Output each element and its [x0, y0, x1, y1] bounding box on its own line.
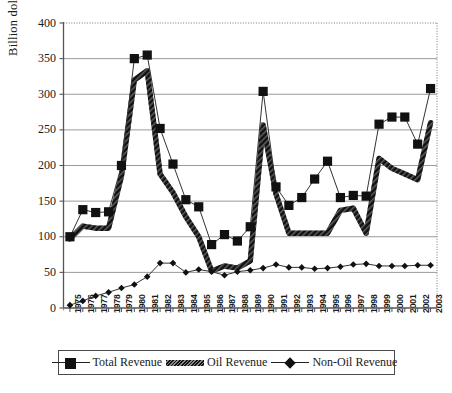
legend-item-non-oil-revenue: Non-Oil Revenue [271, 355, 401, 370]
legend-item-total-revenue: Total Revenue [52, 355, 166, 370]
line-diamond-marker-icon [271, 356, 309, 370]
line-square-marker-icon [52, 356, 90, 370]
legend-label-oil-revenue: Oil Revenue [204, 355, 271, 370]
series-oil-revenue [70, 71, 431, 271]
series-total-revenue [65, 50, 435, 249]
plot-area [0, 0, 452, 393]
chart-figure: Billion dollar 050100150200250300350400 … [0, 0, 452, 393]
thick-hatched-line-icon [166, 356, 204, 370]
legend-item-oil-revenue: Oil Revenue [166, 355, 271, 370]
axis-lines [60, 22, 438, 312]
legend-label-total-revenue: Total Revenue [90, 355, 166, 370]
series-non-oil-revenue [67, 260, 434, 309]
chart-legend: Total Revenue Oil Revenue Non-Oil Revenu… [58, 350, 395, 375]
legend-label-non-oil-revenue: Non-Oil Revenue [309, 355, 401, 370]
